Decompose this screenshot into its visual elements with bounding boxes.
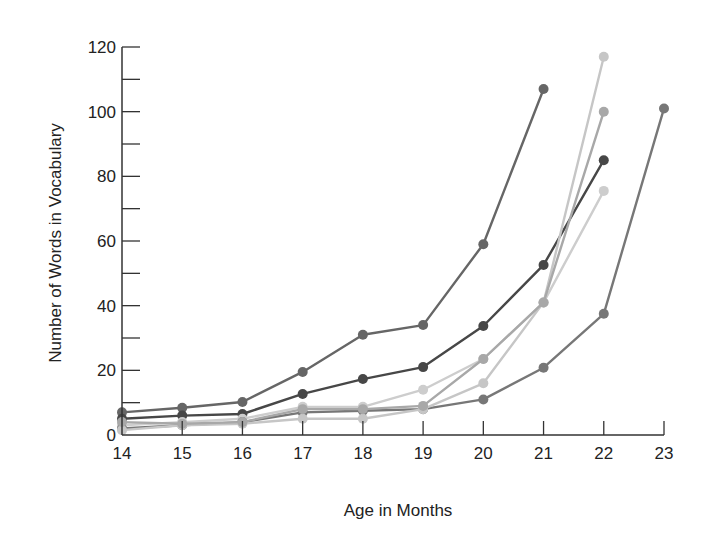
y-axis-title: Number of Words in Vocabulary [46,123,65,363]
data-point [478,354,488,364]
series-4 [117,103,669,433]
data-point [539,84,549,94]
data-point [539,363,549,373]
x-axis-ticks: 14151617181920212223 [113,421,674,463]
x-axis-title: Age in Months [344,501,453,520]
x-tick-label: 23 [655,444,674,463]
x-tick-label: 16 [233,444,252,463]
x-tick-label: 14 [113,444,132,463]
x-tick-label: 17 [293,444,312,463]
axes: 020406080100120 14151617181920212223 [88,38,674,463]
series-line [122,89,544,412]
series-2 [117,155,609,424]
y-tick-label: 0 [107,426,116,445]
data-point [599,107,609,117]
y-tick-label: 80 [97,167,116,186]
x-tick-label: 19 [414,444,433,463]
data-point [599,186,609,196]
y-axis-ticks: 020406080100120 [88,38,140,445]
data-point [418,385,428,395]
data-point [358,374,368,384]
series-line [122,191,604,425]
data-point [358,330,368,340]
data-point [478,378,488,388]
series-line [122,108,664,428]
x-tick-label: 22 [594,444,613,463]
y-tick-label: 40 [97,297,116,316]
vocabulary-growth-chart: 020406080100120 14151617181920212223 Age… [0,0,721,539]
data-point [478,394,488,404]
series-1 [117,84,549,417]
x-tick-label: 15 [173,444,192,463]
data-point [539,260,549,270]
data-point [298,367,308,377]
x-tick-label: 18 [353,444,372,463]
y-tick-label: 100 [88,103,116,122]
y-tick-label: 20 [97,361,116,380]
data-point [599,155,609,165]
data-point [237,397,247,407]
data-point [478,321,488,331]
data-point [418,401,428,411]
data-point [298,389,308,399]
data-point [599,52,609,62]
y-tick-label: 120 [88,38,116,57]
y-tick-label: 60 [97,232,116,251]
data-point [599,309,609,319]
data-point [418,320,428,330]
series-3 [117,186,609,430]
data-point [659,103,669,113]
data-point [418,362,428,372]
data-point [478,239,488,249]
data-point [298,404,308,414]
x-tick-label: 21 [534,444,553,463]
series-layer [117,52,669,435]
data-point [539,297,549,307]
x-tick-label: 20 [474,444,493,463]
data-point [358,404,368,414]
